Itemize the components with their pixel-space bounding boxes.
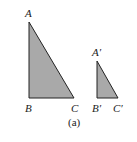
- label-a-prime: A′: [91, 46, 102, 58]
- label-b: B: [25, 102, 32, 114]
- similar-triangles-diagram: A B C A′ B′ C′ (a): [0, 0, 137, 142]
- label-c-prime: C′: [113, 102, 123, 114]
- label-b-prime: B′: [92, 102, 102, 114]
- figure-caption: (a): [68, 116, 81, 129]
- label-a: A: [24, 7, 32, 19]
- triangle-a-prime-b-prime-c-prime: [97, 61, 118, 98]
- triangle-abc: [29, 22, 74, 98]
- label-c: C: [71, 102, 79, 114]
